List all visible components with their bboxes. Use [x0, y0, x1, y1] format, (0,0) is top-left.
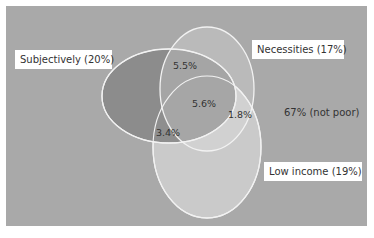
necessities-low-income-value: 1.8% [228, 109, 252, 120]
low-income-label: Low income (19%) [264, 162, 362, 181]
necessities-label: Necessities (17%) [252, 40, 344, 59]
subjectively-low-income-value: 3.4% [156, 127, 180, 138]
venn-diagram [0, 0, 374, 238]
subjectively-necessities-value: 5.5% [173, 60, 197, 71]
not-poor-label: 67% (not poor) [284, 107, 359, 118]
all-three-value: 5.6% [192, 98, 216, 109]
subjectively-label: Subjectively (20%) [15, 50, 112, 69]
